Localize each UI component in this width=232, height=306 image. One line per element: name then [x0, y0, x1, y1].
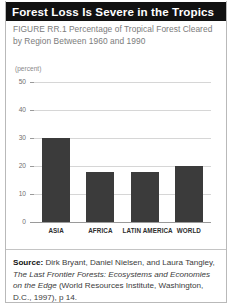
gridline	[34, 82, 211, 83]
bar-world	[175, 166, 203, 222]
y-axis-tick	[30, 138, 34, 139]
chart-baseline	[30, 222, 211, 223]
figure-title: Forest Loss Is Severe in the Tropics	[12, 5, 214, 18]
x-axis-label-world: WORLD	[167, 227, 211, 234]
x-axis-label-latin-america: LATIN AMERICA	[123, 227, 167, 234]
y-axis-tick	[30, 82, 34, 83]
bar-chart: (percent) 01020304050 ASIAAFRICALATIN AM…	[6, 50, 226, 248]
y-axis-tick	[30, 194, 34, 195]
y-axis-tick	[30, 110, 34, 111]
y-axis-tick-label: 30	[6, 134, 26, 141]
source-note: Source: Dirk Bryant, Daniel Nielsen, and…	[13, 257, 219, 303]
figure-caption: FIGURE RR.1 Percentage of Tropical Fores…	[13, 24, 219, 47]
figure-title-bar: Forest Loss Is Severe in the Tropics	[6, 2, 226, 21]
y-axis-tick-label: 10	[6, 190, 26, 197]
bar-africa	[86, 172, 114, 222]
x-axis-label-asia: ASIA	[34, 227, 78, 234]
figure-container: Forest Loss Is Severe in the Tropics FIG…	[0, 0, 232, 306]
source-authors: Dirk Bryant, Daniel Nielsen, and Laura T…	[45, 258, 214, 267]
y-axis-tick-label: 0	[6, 218, 26, 225]
bar-asia	[42, 138, 70, 222]
bar-latin-america	[131, 172, 159, 222]
y-axis-tick	[30, 166, 34, 167]
gridline	[34, 110, 211, 111]
y-axis-unit-label: (percent)	[15, 65, 41, 72]
y-axis-tick-label: 20	[6, 162, 26, 169]
y-axis-tick	[30, 222, 34, 223]
y-axis-tick-label: 50	[6, 78, 26, 85]
x-axis-label-africa: AFRICA	[78, 227, 122, 234]
source-divider	[6, 249, 226, 250]
y-axis-tick-label: 40	[6, 106, 26, 113]
source-label: Source:	[13, 258, 43, 267]
